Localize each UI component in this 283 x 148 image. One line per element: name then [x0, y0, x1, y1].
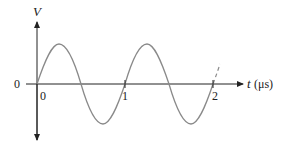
- x-axis-label-unit: (μs): [254, 77, 273, 91]
- y-axis-label: V: [33, 4, 43, 19]
- sine-continuation-dashed: [213, 64, 220, 84]
- origin-value-label: 0: [14, 77, 20, 91]
- x-tick-0: 0: [40, 89, 46, 103]
- x-tick-2: 2: [212, 89, 218, 103]
- x-tick-1: 1: [122, 89, 128, 103]
- x-axis-label-var: t: [247, 76, 251, 91]
- sine-wave-diagram: V 0 0 1 2 t (μs): [0, 0, 283, 148]
